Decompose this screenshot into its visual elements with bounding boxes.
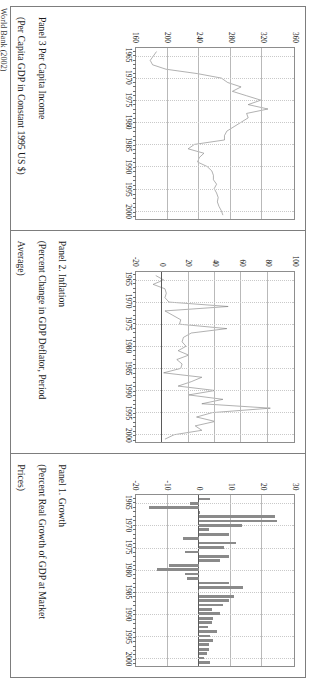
x-tick-label: 2000 — [124, 204, 133, 219]
x-tick-mark — [133, 274, 136, 275]
x-tick-mark — [133, 516, 136, 517]
x-tick-mark — [133, 552, 136, 553]
x-tick-mark — [133, 359, 136, 360]
x-tick-label: 1965 — [124, 48, 133, 63]
bar — [185, 573, 199, 576]
x-tick-mark — [133, 543, 136, 544]
caption-panel-3: Panel 3 Per Capita Income (Per Capita GD… — [15, 7, 49, 230]
x-tick-mark — [133, 350, 136, 351]
data-line — [153, 275, 270, 439]
x-tick-mark — [133, 646, 136, 647]
bar — [157, 568, 200, 571]
bar — [199, 533, 229, 536]
panel-cell-2: -20020406080100 196519701975198019851990… — [11, 231, 305, 455]
bar — [190, 502, 199, 505]
x-tick-label: 1970 — [124, 294, 133, 309]
x-tick-mark — [133, 395, 136, 396]
gridline — [167, 48, 168, 219]
vertical-gridline — [136, 211, 294, 212]
x-tick-mark — [133, 538, 136, 539]
bar — [199, 604, 223, 607]
x-tick-mark — [133, 426, 136, 427]
panel-2-subtitle-cont: Average) — [15, 241, 29, 446]
x-tick-mark — [133, 663, 136, 664]
bar — [199, 630, 216, 633]
x-tick-mark — [133, 637, 136, 638]
vertical-gridline — [136, 144, 294, 145]
x-tick-mark — [133, 113, 136, 114]
y-tick-label: 240 — [195, 17, 204, 43]
x-tick-label: 1985 — [124, 137, 133, 152]
line-series-panel-2 — [136, 272, 294, 443]
x-tick-mark — [133, 587, 136, 588]
chart-panel-1: -20-100102030 19651970197519801985199019… — [109, 464, 299, 669]
x-tick-label: 1970 — [124, 517, 133, 532]
gridline — [240, 272, 241, 443]
x-tick-mark — [133, 328, 136, 329]
x-tick-mark — [133, 431, 136, 432]
y-tick-label: 80 — [264, 241, 273, 267]
panel-1-subtitle: (Percent Real Growth of GDP at Market — [36, 464, 50, 669]
x-tick-mark — [133, 185, 136, 186]
y-tick-label: 0 — [195, 464, 204, 490]
x-tick-mark — [133, 601, 136, 602]
plot-area-panel-1 — [135, 494, 295, 667]
caption-panel-2: Panel 2. Inflation (Percent Change in GD… — [15, 231, 70, 454]
x-tick-mark — [133, 355, 136, 356]
x-tick-mark — [133, 511, 136, 512]
bar — [199, 599, 229, 602]
x-tick-mark — [133, 212, 136, 213]
gridline — [230, 48, 231, 219]
caption-panel-1: Panel 1. Growth (Percent Real Growth of … — [15, 454, 70, 677]
x-tick-mark — [133, 198, 136, 199]
x-tick-mark — [133, 203, 136, 204]
x-tick-label: 1965 — [124, 271, 133, 286]
x-tick-mark — [133, 569, 136, 570]
x-tick-mark — [133, 507, 136, 508]
bar — [199, 661, 210, 664]
panel-cell-1: -20-100102030 19651970197519801985199019… — [11, 454, 305, 677]
x-tick-mark — [133, 547, 136, 548]
bar — [187, 577, 200, 580]
bar — [198, 590, 200, 593]
plot-area-panel-2 — [135, 271, 295, 444]
bar — [199, 617, 213, 620]
document-page: 160200240280320360 196519701975198019851… — [0, 0, 314, 690]
bar — [199, 528, 208, 531]
y-tick-label: 360 — [291, 17, 300, 43]
x-tick-mark — [133, 95, 136, 96]
y-tick-label: 160 — [131, 17, 140, 43]
x-tick-mark — [133, 91, 136, 92]
panels-table: 160200240280320360 196519701975198019851… — [10, 6, 306, 678]
panel-2-subtitle: (Percent Change in GDP Deflator, Period — [36, 241, 50, 446]
y-tick-label: -20 — [131, 241, 140, 267]
bar — [149, 506, 200, 509]
x-tick-mark — [133, 292, 136, 293]
x-tick-mark — [133, 64, 136, 65]
x-tick-mark — [133, 417, 136, 418]
bar — [199, 546, 224, 549]
bar — [199, 648, 208, 651]
x-tick-mark — [133, 382, 136, 383]
vertical-gridline — [136, 280, 294, 281]
y-tick-label: 200 — [163, 17, 172, 43]
x-tick-mark — [133, 297, 136, 298]
source-note: World Bank (2002) — [0, 8, 8, 71]
x-tick-mark — [133, 194, 136, 195]
x-tick-mark — [133, 525, 136, 526]
x-axis-labels-panel-1: 19651970197519801985199019952000 — [117, 494, 133, 667]
x-tick-mark — [133, 377, 136, 378]
gridline — [261, 48, 262, 219]
x-tick-mark — [133, 51, 136, 52]
panel-3-title: Panel 3 Per Capita Income — [36, 17, 50, 222]
chart-panel-3: 160200240280320360 196519701975198019851… — [109, 17, 299, 222]
chart-panel-2: -20020406080100 196519701975198019851990… — [109, 241, 299, 446]
vertical-gridline — [136, 592, 294, 593]
x-tick-mark — [133, 574, 136, 575]
panel-3-subtitle: (Per Capita GDP in Constant 1995 US $) — [15, 17, 29, 222]
vertical-gridline — [136, 122, 294, 123]
x-tick-mark — [133, 140, 136, 141]
gridline — [188, 272, 189, 443]
y-tick-label: 40 — [211, 241, 220, 267]
bar — [199, 559, 220, 562]
